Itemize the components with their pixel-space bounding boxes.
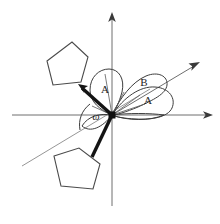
diagonal-axis-arrowhead (189, 62, 201, 71)
label-right-A: A (144, 94, 152, 106)
torsion-angle-figure: A A B ω (0, 0, 220, 224)
upper-left-pentagon (47, 42, 88, 85)
diagonal-axis (112, 66, 194, 115)
label-upper-A: A (101, 83, 109, 95)
label-right-B: B (140, 76, 147, 88)
projection-reference-line (22, 89, 150, 166)
axes-group (12, 12, 213, 206)
origin-vertex-dot (109, 112, 116, 119)
figure-canvas: A A B ω (0, 0, 220, 224)
lobe-baseline-A (112, 114, 164, 120)
label-omega: ω (92, 111, 99, 122)
